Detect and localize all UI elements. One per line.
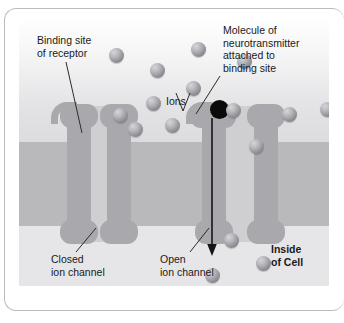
label-ions: Ions	[166, 95, 186, 108]
label-molecule-of-neurotransmitter: Molecule of neurotransmitter attached to…	[223, 24, 299, 74]
label-open-ion-channel: Open ion channel	[160, 253, 214, 278]
label-closed-ion-channel: Closed ion channel	[51, 253, 105, 278]
leader-molecule	[196, 76, 220, 114]
label-binding-site-of-receptor: Binding site of receptor	[37, 34, 91, 59]
leader-closed-channel	[76, 228, 96, 252]
label-inside-of-cell: Inside of Cell	[271, 243, 303, 268]
leader-open-channel	[190, 228, 209, 252]
leader-binding-site	[66, 62, 82, 133]
